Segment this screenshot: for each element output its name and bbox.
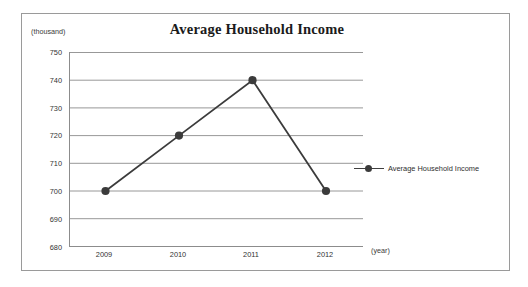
legend-marker-icon	[365, 165, 372, 172]
y-tick-label: 750	[32, 49, 62, 56]
chart-title: Average Household Income	[122, 21, 392, 38]
y-tick-label: 680	[32, 244, 62, 251]
x-tick-label: 2011	[231, 251, 271, 258]
y-axis-unit-label: (thousand)	[31, 27, 65, 36]
x-tick-label: 2009	[84, 251, 124, 258]
plot-area	[69, 52, 363, 247]
y-tick-label: 740	[32, 77, 62, 84]
data-point-2010	[175, 132, 183, 140]
y-tick-label: 730	[32, 105, 62, 112]
x-axis-unit-label: (year)	[371, 246, 390, 255]
x-tick-label: 2012	[305, 251, 345, 258]
data-point-2012	[322, 187, 330, 195]
legend-label: Average Household Income	[388, 164, 479, 173]
y-axis	[69, 52, 70, 247]
chart-frame: Average Household Income (thousand) (yea…	[21, 13, 510, 271]
x-axis	[69, 247, 363, 248]
data-point-2009	[101, 187, 109, 195]
y-tick-label: 700	[32, 188, 62, 195]
legend-swatch-icon	[354, 163, 384, 173]
line-chart-svg	[69, 52, 363, 247]
y-tick-label: 720	[32, 132, 62, 139]
gridlines	[69, 53, 363, 219]
y-tick-label: 690	[32, 216, 62, 223]
y-tick-label: 710	[32, 160, 62, 167]
x-tick-label: 2010	[158, 251, 198, 258]
data-point-2011	[248, 76, 256, 84]
chart-legend: Average Household Income	[354, 162, 479, 174]
